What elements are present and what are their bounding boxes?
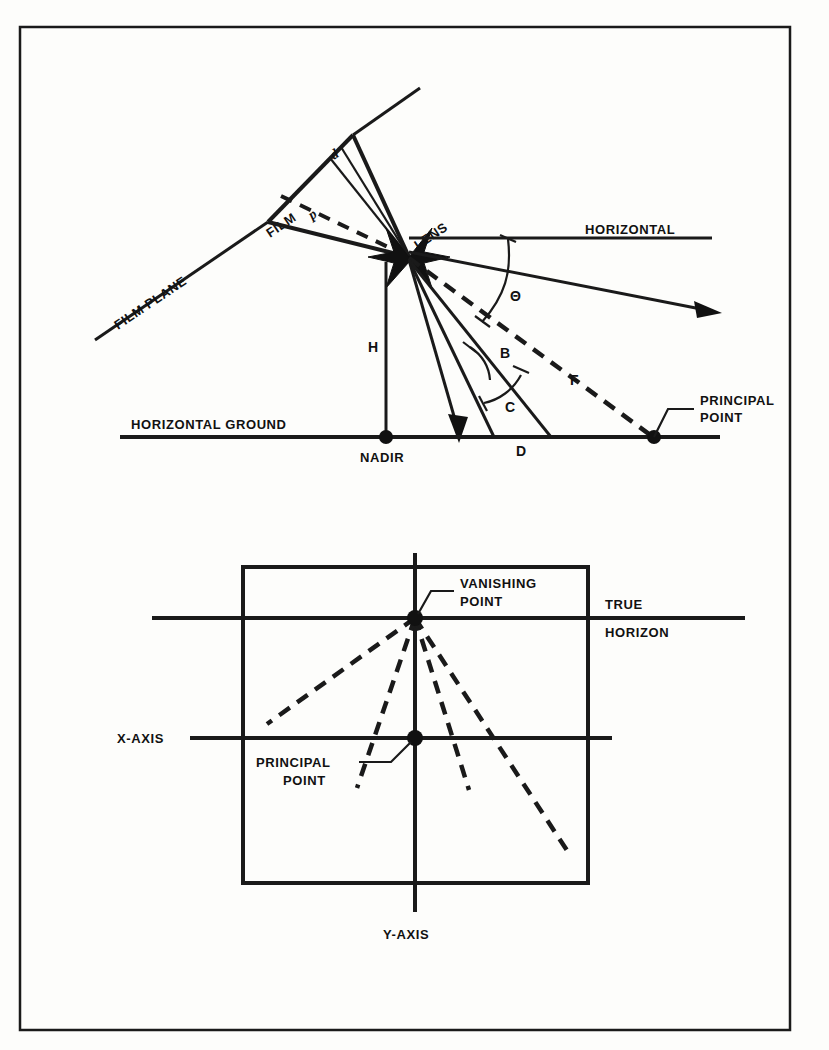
lens-label: LENS — [411, 219, 450, 252]
horizontal-ground-label: HORIZONTAL GROUND — [131, 417, 287, 432]
vanishing-point-dot — [407, 610, 423, 626]
principal-point-leader-lower — [359, 742, 411, 762]
nadir-point-dot — [379, 430, 393, 444]
perspective-line-4 — [415, 618, 568, 852]
horizontal-label: HORIZONTAL — [585, 222, 675, 237]
angle-b-tick — [463, 342, 476, 352]
angle-d-label: D — [516, 443, 527, 459]
upper-diagram: FILM PLANE FILM d p LENS HORIZONTAL — [95, 88, 775, 465]
height-h-label: H — [368, 339, 379, 355]
angle-b-label: B — [500, 345, 511, 361]
principal-point-label-lower-l2: POINT — [283, 773, 326, 788]
film-plane-line-upper — [353, 88, 420, 135]
vanishing-point-label-l1: VANISHING — [460, 576, 537, 591]
principal-point-label-upper-l1: PRINCIPAL — [700, 393, 775, 408]
film-cone-inner-ray-2 — [341, 147, 409, 257]
principal-point-label-upper-l2: POINT — [700, 410, 743, 425]
vanishing-point-label-l2: POINT — [460, 594, 503, 609]
technical-diagram: FILM PLANE FILM d p LENS HORIZONTAL — [0, 0, 829, 1050]
figure-border — [20, 27, 790, 1030]
angle-f-label: F — [570, 372, 579, 388]
vanishing-point-leader — [418, 591, 454, 614]
optical-axis-ray — [409, 252, 706, 310]
x-axis-label: X-AXIS — [117, 731, 164, 746]
focal-p-label: p — [304, 206, 319, 223]
figure-root: FILM PLANE FILM d p LENS HORIZONTAL — [0, 0, 829, 1050]
angle-c-label: C — [505, 399, 516, 415]
true-horizon-label-l2: HORIZON — [605, 625, 669, 640]
theta-angle-arc — [482, 239, 509, 322]
principal-point-label-lower-l1: PRINCIPAL — [256, 755, 331, 770]
optical-axis-arrowhead — [694, 301, 722, 318]
y-axis-label: Y-AXIS — [383, 927, 429, 942]
principal-point-leader-upper — [654, 409, 694, 437]
perspective-line-3 — [415, 618, 469, 790]
theta-angle-label: Θ — [510, 288, 522, 304]
true-horizon-label-l1: TRUE — [605, 597, 643, 612]
film-cone-lower-ray — [268, 222, 409, 257]
film-plane-label: FILM PLANE — [111, 273, 189, 332]
angle-c-tick-right — [513, 366, 529, 373]
angle-b-arc — [470, 347, 490, 380]
lower-diagram: TRUE HORIZON Y-AXIS X-AXIS VANISHING POI… — [117, 553, 745, 942]
perspective-line-1 — [267, 618, 415, 724]
nadir-label: NADIR — [360, 450, 404, 465]
